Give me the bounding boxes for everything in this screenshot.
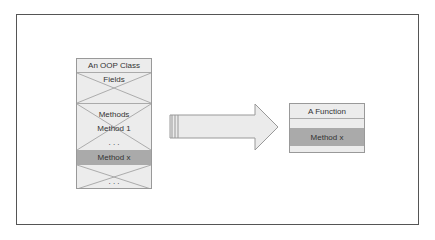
right-arrow-icon [168,102,280,152]
fields-section: Fields [77,73,151,104]
methods-label: Methods [77,110,151,119]
function-box: A Function Method x [289,103,365,153]
fields-label: Fields [77,75,151,84]
methods-section: Methods Method 1 . . . [77,104,151,151]
function-method-x-label: Method x [290,133,364,142]
class-title-row: An OOP Class [77,59,151,73]
oop-class-box: An OOP Class Fields Methods Method 1 . .… [76,58,152,189]
function-title: A Function [290,107,364,116]
function-title-row: A Function [290,104,364,119]
function-method-x-row: Method x [290,129,364,146]
method-x-label: Method x [77,153,151,162]
class-title: An OOP Class [77,61,151,70]
ellipsis-label: . . . [77,177,151,186]
ellipsis-label: . . . [77,138,151,147]
method-1-label: Method 1 [77,124,151,133]
method-x-row: Method x [77,151,151,165]
function-blank-row [290,119,364,129]
remaining-section: . . . [77,165,151,189]
